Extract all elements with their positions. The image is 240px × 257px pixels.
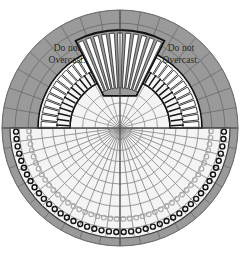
diagram-canvas: Do not Overcast. Do not Overcast. bbox=[0, 0, 240, 257]
label-do-not-overcast-left: Do not Overcast. bbox=[36, 43, 98, 66]
polar-stitch-diagram bbox=[0, 0, 240, 257]
label-do-not-overcast-right: Do not Overcast. bbox=[150, 43, 212, 66]
